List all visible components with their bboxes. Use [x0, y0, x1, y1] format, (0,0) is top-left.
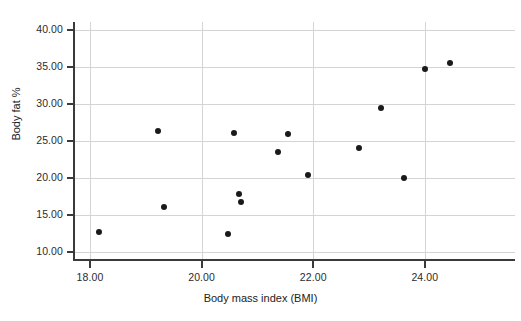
y-gridline — [74, 141, 515, 142]
data-point — [285, 131, 291, 137]
x-tick-label: 20.00 — [172, 271, 232, 283]
y-tick-label: 30.00 — [19, 97, 63, 109]
y-tick-label: 35.00 — [19, 60, 63, 72]
data-point — [378, 105, 384, 111]
y-gridline — [74, 67, 515, 68]
y-tick-mark — [67, 177, 74, 179]
x-gridline — [313, 22, 314, 260]
data-point — [238, 199, 244, 205]
data-point — [96, 229, 102, 235]
x-tick-mark — [312, 261, 314, 268]
data-point — [447, 60, 453, 66]
x-gridline — [202, 22, 203, 260]
y-tick-mark — [67, 66, 74, 68]
x-tick-mark — [201, 261, 203, 268]
y-tick-mark — [67, 103, 74, 105]
x-tick-label: 24.00 — [395, 271, 455, 283]
data-point — [275, 149, 281, 155]
y-gridline — [74, 178, 515, 179]
y-gridline — [74, 30, 515, 31]
y-tick-label: 15.00 — [19, 208, 63, 220]
y-tick-label: 20.00 — [19, 171, 63, 183]
y-tick-mark — [67, 29, 74, 31]
data-point — [236, 191, 242, 197]
x-gridline — [425, 22, 426, 260]
y-tick-mark — [67, 214, 74, 216]
y-tick-label: 40.00 — [19, 23, 63, 35]
data-point — [231, 130, 237, 136]
data-point — [161, 204, 167, 210]
x-axis-line — [73, 259, 515, 261]
x-axis-title: Body mass index (BMI) — [0, 292, 521, 304]
data-point — [401, 175, 407, 181]
y-axis-title: Body fat % — [10, 54, 22, 174]
x-tick-label: 22.00 — [283, 271, 343, 283]
data-point — [422, 66, 428, 72]
y-tick-label: 25.00 — [19, 134, 63, 146]
x-tick-mark — [89, 261, 91, 268]
data-point — [356, 145, 362, 151]
data-point — [225, 231, 231, 237]
plot-area — [74, 22, 515, 260]
data-point — [155, 128, 161, 134]
x-gridline — [90, 22, 91, 260]
y-gridline — [74, 252, 515, 253]
y-tick-label: 10.00 — [19, 245, 63, 257]
y-tick-mark — [67, 251, 74, 253]
y-tick-mark — [67, 140, 74, 142]
x-tick-label: 18.00 — [60, 271, 120, 283]
y-gridline — [74, 104, 515, 105]
x-tick-mark — [424, 261, 426, 268]
y-gridline — [74, 215, 515, 216]
scatter-plot-figure: Body fat % Body mass index (BMI) 10.0015… — [0, 0, 521, 321]
